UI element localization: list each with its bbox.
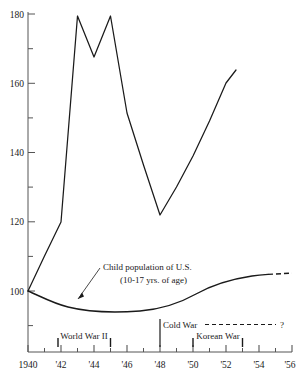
x-tick-label-1948: '48 <box>154 360 165 370</box>
korean-war-annotation: Korean War <box>193 331 243 347</box>
cold-war-label: Cold War <box>163 320 197 330</box>
child-population-leader-arrowhead <box>78 293 84 300</box>
y-tick-label-160: 160 <box>10 79 25 89</box>
y-tick-label-140: 140 <box>10 148 25 158</box>
cold-war-question-mark: ? <box>280 320 284 330</box>
child-population-annotation: Child population of U.S. (10-17 yrs. of … <box>78 262 192 299</box>
child-population-label-line1: Child population of U.S. <box>103 262 192 272</box>
world-war-ii-annotation: World War II <box>58 331 111 347</box>
line-chart: 180 160 140 120 100 <box>0 0 298 373</box>
x-tick-label-1956: '56 <box>284 360 295 370</box>
korean-war-label: Korean War <box>196 331 239 341</box>
x-tick-label-1952: '52 <box>220 360 231 370</box>
x-tick-label-1944: '44 <box>88 360 99 370</box>
x-tick-label-1942: '42 <box>55 360 66 370</box>
x-tick-label-1946: '46 <box>121 360 132 370</box>
x-tick-label-1950: '50 <box>187 360 198 370</box>
y-tick-label-120: 120 <box>10 217 25 227</box>
world-war-ii-label: World War II <box>60 331 107 341</box>
y-tick-label-100: 100 <box>10 287 25 297</box>
y-axis-minor-ticks <box>28 49 33 326</box>
child-population-projection-dashed <box>268 273 292 274</box>
y-axis-major-ticks <box>28 14 35 291</box>
x-tick-label-1954: '54 <box>253 360 264 370</box>
index-line-series <box>28 16 236 291</box>
child-population-label-line2: (10-17 yrs. of age) <box>120 275 187 285</box>
x-axis-tick-labels: 1940 '42 '44 '46 '48 '50 '52 '54 '56 <box>19 360 296 370</box>
y-axis-tick-labels: 180 160 140 120 100 <box>10 10 25 297</box>
y-tick-label-180: 180 <box>10 10 25 20</box>
x-tick-label-1940: 1940 <box>19 360 38 370</box>
chart-container: 180 160 140 120 100 <box>0 0 298 373</box>
